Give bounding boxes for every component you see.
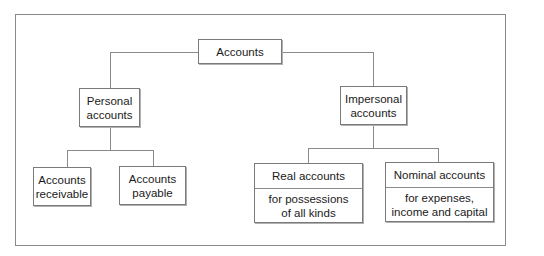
node-real-accounts: Real accounts for possessions of all kin…: [254, 163, 363, 223]
connector-to-impersonal: [373, 52, 374, 86]
node-description: for possessions of all kinds: [255, 189, 362, 223]
connector-to-payable: [153, 150, 154, 166]
connector-impersonal-down: [373, 125, 374, 148]
node-accounts-payable: Accounts payable: [119, 166, 186, 205]
connector-to-nominal: [438, 148, 439, 162]
node-nominal-accounts: Nominal accounts for expenses, income an…: [385, 162, 494, 222]
node-personal-accounts: Personal accounts: [79, 88, 140, 127]
node-label: Accounts: [216, 45, 263, 59]
node-label: Impersonal accounts: [345, 92, 402, 120]
node-accounts: Accounts: [198, 39, 282, 64]
connector-to-receivable: [67, 150, 68, 167]
node-impersonal-accounts: Impersonal accounts: [340, 86, 407, 125]
connector-impersonal-horizontal: [308, 148, 439, 149]
node-label: Accounts receivable: [36, 173, 88, 201]
node-title: Nominal accounts: [386, 163, 493, 188]
node-title: Real accounts: [255, 164, 362, 189]
node-label: Personal accounts: [86, 94, 132, 122]
connector-personal-horizontal: [67, 150, 154, 151]
connector-to-personal: [110, 52, 111, 88]
node-description: for expenses, income and capital: [386, 188, 493, 222]
connector-personal-down: [110, 127, 111, 150]
node-accounts-receivable: Accounts receivable: [33, 167, 91, 206]
node-label: Accounts payable: [129, 172, 176, 200]
connector-to-real: [308, 148, 309, 163]
